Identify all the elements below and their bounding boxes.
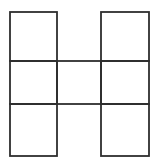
- figure-canvas: [0, 0, 158, 166]
- grid-square: [57, 61, 101, 104]
- grid-square: [101, 104, 149, 156]
- grid-square: [10, 12, 57, 61]
- grid-square: [101, 61, 149, 104]
- h-shaped-squares-figure: [0, 0, 158, 166]
- grid-square: [101, 12, 149, 61]
- grid-square: [10, 104, 57, 156]
- grid-square: [10, 61, 57, 104]
